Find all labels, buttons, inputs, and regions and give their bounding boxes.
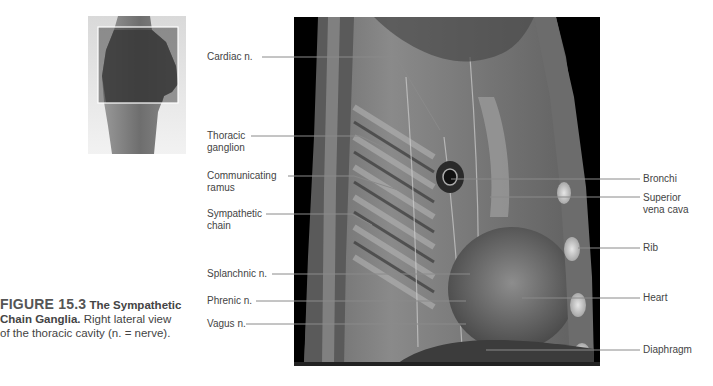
label-superior-vena-cava: Superior vena cava: [643, 192, 689, 216]
figure-title-part-1: The Sympathetic: [89, 299, 181, 311]
label-text: chain: [207, 220, 262, 232]
label-text: ramus: [207, 182, 276, 194]
label-text: Bronchi: [643, 173, 677, 184]
thoracic-cavity-image: [294, 17, 600, 366]
label-vagus-n: Vagus n.: [207, 318, 246, 330]
caption-line-1: FIGURE 15.3 The Sympathetic: [0, 297, 200, 312]
label-text: Communicating: [207, 170, 276, 182]
label-sympathetic-chain: Sympathetic chain: [207, 208, 262, 232]
orientation-thumbnail: [88, 16, 186, 154]
label-text: Diaphragm: [643, 344, 692, 355]
figure-description-part-1: Right lateral view: [84, 313, 172, 325]
label-heart: Heart: [643, 292, 667, 304]
figure-caption: FIGURE 15.3 The Sympathetic Chain Gangli…: [0, 297, 200, 340]
label-text: Splanchnic n.: [207, 268, 267, 279]
label-phrenic-n: Phrenic n.: [207, 295, 252, 307]
label-text: Vagus n.: [207, 318, 246, 329]
label-text: Sympathetic: [207, 208, 262, 220]
label-text: Thoracic: [207, 130, 245, 142]
label-splanchnic-n: Splanchnic n.: [207, 268, 267, 280]
label-text: ganglion: [207, 142, 245, 154]
label-cardiac-n: Cardiac n.: [207, 51, 253, 63]
label-thoracic-ganglion: Thoracic ganglion: [207, 130, 245, 154]
label-text: Phrenic n.: [207, 295, 252, 306]
label-text: Rib: [643, 242, 658, 253]
label-text: Superior: [643, 192, 689, 204]
label-rib: Rib: [643, 242, 658, 254]
label-text: vena cava: [643, 204, 689, 216]
label-text: Heart: [643, 292, 667, 303]
figure-number: FIGURE 15.3: [0, 296, 86, 312]
caption-line-3: of the thoracic cavity (n. = nerve).: [0, 326, 200, 340]
caption-line-2: Chain Ganglia. Right lateral view: [0, 312, 200, 326]
label-text: Cardiac n.: [207, 51, 253, 62]
label-diaphragm: Diaphragm: [643, 344, 692, 356]
label-bronchi: Bronchi: [643, 173, 677, 185]
figure-title-part-2: Chain Ganglia.: [0, 313, 81, 325]
label-communicating-ramus: Communicating ramus: [207, 170, 276, 194]
